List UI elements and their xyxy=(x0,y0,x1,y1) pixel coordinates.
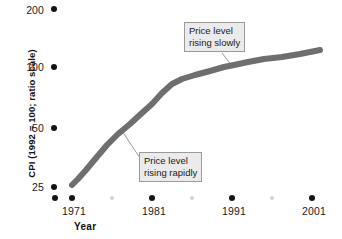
plot-area xyxy=(0,0,342,239)
annotation-rising-slowly: Price level rising slowly xyxy=(184,22,245,52)
y-tick-label-50: 50 xyxy=(12,122,44,134)
y-tick-label-25: 25 xyxy=(12,181,44,193)
annotation-rising-slowly-line2: rising slowly xyxy=(189,37,240,49)
x-tick-dot-1971 xyxy=(69,195,75,201)
y-axis-title: CPI (1992 = 100; ratio scale) xyxy=(26,29,37,199)
y-tick-label-200: 200 xyxy=(12,4,44,16)
annotation-rising-rapidly: Price level rising rapidly xyxy=(139,152,202,182)
x-axis-origin-dot xyxy=(52,195,58,201)
x-axis-title: Year xyxy=(74,221,96,232)
annotation-rising-rapidly-line1: Price level xyxy=(144,155,197,167)
x-minor-tick-dot-1976 xyxy=(110,196,114,200)
y-tick-dot-200 xyxy=(51,6,57,12)
y-tick-dot-25 xyxy=(51,184,57,190)
cpi-line-chart: CPI (1992 = 100; ratio scale) 200 100 50… xyxy=(0,0,342,239)
x-tick-dot-1991 xyxy=(229,195,235,201)
x-tick-label-1971: 1971 xyxy=(62,205,86,217)
x-minor-tick-dot-1996 xyxy=(270,196,274,200)
x-tick-label-2001: 2001 xyxy=(302,205,326,217)
leader-line-rising-rapidly xyxy=(122,131,140,158)
y-tick-label-100: 100 xyxy=(12,61,44,73)
x-tick-dot-2001 xyxy=(309,195,315,201)
annotation-rising-rapidly-line2: rising rapidly xyxy=(144,167,197,179)
y-tick-dot-100 xyxy=(51,64,57,70)
y-tick-dot-50 xyxy=(51,125,57,131)
x-minor-tick-dot-1986 xyxy=(190,196,194,200)
annotation-rising-slowly-line1: Price level xyxy=(189,25,240,37)
x-tick-label-1991: 1991 xyxy=(222,205,246,217)
x-tick-dot-1981 xyxy=(149,195,155,201)
x-tick-label-1981: 1981 xyxy=(142,205,166,217)
